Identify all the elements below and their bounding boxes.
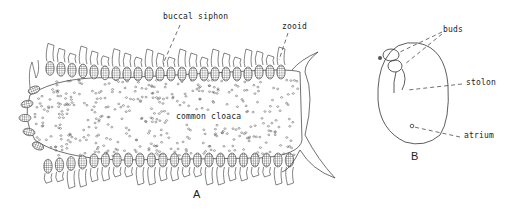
stolon xyxy=(394,69,405,93)
label-buccal-siphon: buccal siphon xyxy=(163,12,228,21)
leader-buds-2 xyxy=(405,34,442,64)
label-common-cloaca: common cloaca xyxy=(176,112,241,121)
leader-atrium xyxy=(414,127,460,137)
panel-label-b: B xyxy=(411,150,418,162)
figure: buccal siphon zooid common cloaca A buds… xyxy=(0,0,513,217)
label-zooid: zooid xyxy=(282,22,307,31)
leader-stolon xyxy=(408,84,462,90)
bud-2 xyxy=(388,60,402,72)
common-cloaca-outline xyxy=(27,70,302,160)
leader-buccal-siphon xyxy=(163,25,180,64)
pigment-spot xyxy=(378,56,382,60)
label-buds: buds xyxy=(443,25,463,34)
label-stolon: stolon xyxy=(466,78,496,87)
leader-zooid xyxy=(279,33,288,60)
label-atrium: atrium xyxy=(464,131,494,140)
atrium-opening xyxy=(410,124,414,128)
leader-buds-1 xyxy=(400,32,442,52)
panel-label-a: A xyxy=(193,188,200,200)
